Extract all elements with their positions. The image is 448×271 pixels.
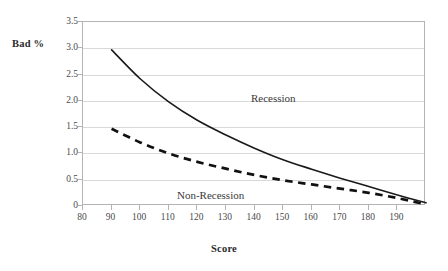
series-lines [83, 22, 426, 206]
y-axis-tick-label: 0.5 [48, 174, 78, 184]
x-axis-ticks: 8090100110120130140150160170180190 [82, 205, 425, 239]
x-axis-tick-mark [111, 205, 112, 210]
y-axis-tick-label: 3.0 [48, 42, 78, 52]
x-axis-tick-mark [311, 205, 312, 210]
x-axis-tick-label: 110 [153, 212, 183, 222]
x-axis-tick-mark [368, 205, 369, 210]
x-axis-tick-label: 160 [296, 212, 326, 222]
x-axis-tick-mark [139, 205, 140, 210]
x-axis-tick-mark [339, 205, 340, 210]
x-axis-tick-label: 180 [353, 212, 383, 222]
x-axis-tick-label: 130 [210, 212, 240, 222]
x-axis-tick-label: 190 [381, 212, 411, 222]
y-axis-tick-label: 1.0 [48, 147, 78, 157]
x-axis-tick-mark [82, 205, 83, 210]
x-axis-tick-label: 100 [124, 212, 154, 222]
y-axis-tick-label: 2.5 [48, 69, 78, 79]
x-axis-tick-mark [225, 205, 226, 210]
y-axis-tick-label: 2.0 [48, 95, 78, 105]
series-label-recession: Recession [251, 92, 296, 104]
x-axis-tick-label: 150 [267, 212, 297, 222]
x-axis-tick-mark [282, 205, 283, 210]
x-axis-tick-label: 90 [96, 212, 126, 222]
x-axis-tick-mark [168, 205, 169, 210]
x-axis-title: Score [0, 243, 448, 254]
x-axis-tick-mark [396, 205, 397, 210]
line-non-recession [112, 129, 426, 205]
chart-container: Bad % 00.51.01.52.02.53.03.5 Recession N… [0, 0, 448, 271]
y-axis-tick-labels: 00.51.01.52.02.53.03.5 [44, 21, 78, 205]
line-recession [112, 50, 426, 203]
x-axis-tick-label: 170 [324, 212, 354, 222]
x-axis-tick-mark [254, 205, 255, 210]
y-axis-tick-label: 1.5 [48, 121, 78, 131]
y-axis-tick-label: 0 [48, 200, 78, 210]
x-axis-tick-label: 120 [181, 212, 211, 222]
series-label-non-recession: Non-Recession [177, 189, 244, 201]
x-axis-tick-label: 140 [239, 212, 269, 222]
plot-area: Recession Non-Recession [82, 21, 425, 205]
x-axis-tick-label: 80 [67, 212, 97, 222]
y-axis-tick-label: 3.5 [48, 16, 78, 26]
x-axis-tick-mark [196, 205, 197, 210]
